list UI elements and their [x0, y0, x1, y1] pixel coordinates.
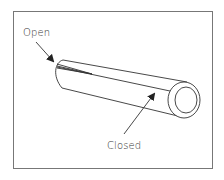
closed-arrow-icon: [124, 94, 154, 134]
tube-outline: [56, 60, 187, 117]
open-label: Open: [23, 27, 50, 38]
closed-label: Closed: [107, 140, 141, 151]
open-arrow-icon: [36, 42, 53, 61]
tube-inner-ring: [175, 87, 197, 113]
